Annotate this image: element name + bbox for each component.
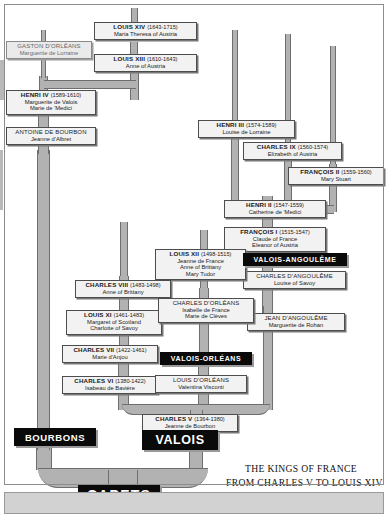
plaque-consort: Mary Tudor: [159, 271, 242, 277]
plaque-name: HENRI IV (1589-1610): [10, 92, 92, 99]
plaque-name: FRANÇOIS I (1515-1547): [228, 229, 322, 236]
plaque-consort: Isabeau de Bavière: [66, 385, 154, 391]
banner-valois[interactable]: VALOIS: [142, 430, 218, 450]
plaque-name: CHARLES VI (1380-1422): [66, 378, 154, 385]
plaque-name: CHARLES D'ANGOULÊME: [247, 273, 342, 280]
plaque-consort: Louise of Savoy: [247, 280, 342, 286]
plaque-consort: Mary Stuart: [292, 176, 380, 182]
plaque-consort: Valentina Visconti: [159, 384, 243, 390]
plaque-jean-dangouleme[interactable]: JEAN D'ANGOULÊME Marguerite de Rohan: [247, 313, 345, 331]
branch-angouleme-lower: [263, 352, 273, 410]
plaque-henri-ii[interactable]: HENRI II (1547-1559) Catherine de 'Medic…: [224, 200, 326, 218]
plaque-consort: Marie d'Anjou: [66, 354, 154, 360]
plaque-name: JEAN D'ANGOULÊME: [251, 315, 341, 322]
plaque-consort: Eleanor of Austria: [228, 242, 322, 248]
plaque-consort: Marie de Clèves: [162, 313, 250, 319]
plaque-name: LOUIS XII (1498-1515): [159, 251, 242, 258]
plaque-name: HENRI II (1547-1559): [228, 202, 322, 209]
plaque-name: LOUIS XI (1461-1483): [70, 312, 158, 319]
plaque-name: CHARLES VII (1422-1461): [66, 347, 154, 354]
plaque-name: HENRI III (1574-1589): [202, 122, 291, 129]
banner-bourbons[interactable]: BOURBONS: [14, 428, 96, 446]
plaque-name: CHARLES V (1364-1380): [146, 416, 234, 423]
plaque-charles-dorleans[interactable]: CHARLES D'ORLÉANS Isabelle de France Mar…: [158, 298, 254, 323]
plaque-consort: Catherine de 'Medici: [228, 209, 322, 215]
plaque-consort: Marie de 'Medici: [10, 105, 92, 111]
plaque-henri-iv[interactable]: HENRI IV (1589-1610) Marguerite de Valoi…: [6, 90, 96, 115]
branch-charles-viii-tip: [120, 222, 128, 284]
caption-line-1: THE KINGS OF FRANCE: [226, 462, 376, 476]
plaque-charles-vi[interactable]: CHARLES VI (1380-1422) Isabeau de Bavièr…: [62, 376, 158, 394]
branch-bourbon-trunk: [36, 448, 52, 470]
caption-line-2: FROM CHARLES V TO LOUIS XIV: [226, 476, 376, 490]
plaque-charles-vii[interactable]: CHARLES VII (1422-1461) Marie d'Anjou: [62, 345, 158, 363]
plaque-consort: Anne of Austria: [98, 63, 193, 69]
plaque-consort: Maria Theresa of Austria: [98, 31, 193, 37]
plaque-consort: Anne of Brittany: [79, 289, 167, 295]
plaque-name: LOUIS XIV (1643-1715): [98, 24, 193, 31]
plaque-name: ANTOINE DE BOURBON: [10, 129, 92, 136]
scan-edge-artifact: [0, 150, 3, 210]
plaque-louis-xiii[interactable]: LOUIS XIII (1610-1643) Anne of Austria: [94, 54, 197, 72]
plaque-charles-ix[interactable]: CHARLES IX (1560-1574) Elizabeth of Aust…: [243, 142, 342, 160]
plaque-charles-dangouleme[interactable]: CHARLES D'ANGOULÊME Louise of Savoy: [243, 271, 346, 289]
scan-edge-artifact: [0, 60, 4, 100]
plaque-louis-dorleans[interactable]: LOUIS D'ORLÉANS Valentina Visconti: [155, 375, 247, 393]
plaque-name: CHARLES IX (1560-1574): [247, 144, 338, 151]
plaque-consort: Charlotte of Savoy: [70, 325, 158, 331]
plaque-name: GASTON D'ORLÉANS: [10, 43, 88, 50]
plaque-charles-viii[interactable]: CHARLES VIII (1483-1498) Anne of Brittan…: [75, 280, 171, 298]
plate-footer-band: [4, 492, 384, 514]
plaque-consort: Jeanne d'Albret: [10, 136, 92, 142]
banner-valois-orleans[interactable]: VALOIS-ORLÉANS: [160, 352, 252, 365]
plaque-consort: Jeanne de Bourbon: [146, 423, 234, 429]
plaque-consort: Marguerite de Rohan: [251, 322, 341, 328]
banner-valois-angouleme[interactable]: VALOIS-ANGOULÊME: [243, 253, 347, 266]
genealogy-plate: GASTON D'ORLÉANS Marguerite de Lorraine …: [0, 0, 388, 529]
branch-henri-iv-join: [44, 80, 136, 89]
plaque-name: CHARLES D'ORLÉANS: [162, 300, 250, 307]
plaque-consort: Elizabeth of Austria: [247, 151, 338, 157]
plaque-louis-xii[interactable]: LOUIS XII (1498-1515) Jeanne de France A…: [155, 249, 246, 280]
plaque-name: LOUIS D'ORLÉANS: [159, 377, 243, 384]
plaque-name: LOUIS XIII (1610-1643): [98, 56, 193, 63]
plaque-antoine-de-bourbon[interactable]: ANTOINE DE BOURBON Jeanne d'Albret: [6, 127, 96, 145]
branch-bourbon-stem: [37, 150, 50, 450]
plaque-consort: Marguerite de Lorraine: [10, 50, 88, 56]
plaque-consort: Louise de Lorraine: [202, 129, 291, 135]
plaque-louis-xi[interactable]: LOUIS XI (1461-1483) Margaret of Scotlan…: [66, 310, 162, 335]
plaque-henri-iii[interactable]: HENRI III (1574-1589) Louise de Lorraine: [198, 120, 295, 138]
plaque-gaston-dorleans[interactable]: GASTON D'ORLÉANS Marguerite de Lorraine: [6, 41, 92, 59]
plaque-name: FRANÇOIS II (1559-1560): [292, 169, 380, 176]
plate-caption: THE KINGS OF FRANCE FROM CHARLES V TO LO…: [226, 462, 376, 491]
plaque-louis-xiv[interactable]: LOUIS XIV (1643-1715) Maria Theresa of A…: [94, 22, 197, 40]
plaque-name: CHARLES VIII (1483-1498): [79, 282, 167, 289]
plaque-francois-ii[interactable]: FRANÇOIS II (1559-1560) Mary Stuart: [288, 167, 384, 185]
